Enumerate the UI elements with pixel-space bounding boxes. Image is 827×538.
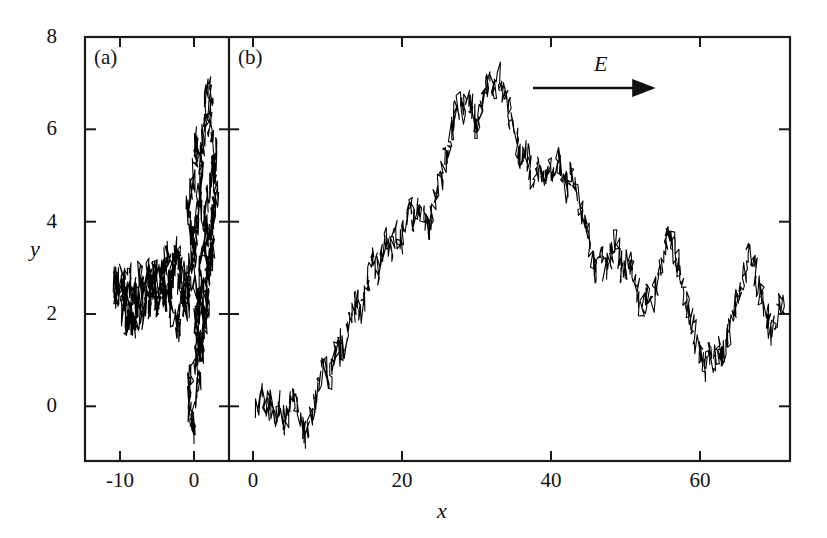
x-tick-label-a-minus10: -10 (106, 468, 134, 493)
panel-label-a: (a) (94, 45, 117, 70)
trajectory-panel-a (113, 77, 218, 444)
x-tick-label-a-0: 0 (189, 468, 200, 493)
x-axis-ticks-panel-b (253, 37, 700, 461)
y-tick-label-0: 0 (47, 393, 58, 418)
y-tick-label-6: 6 (47, 116, 58, 141)
field-label-E: E (594, 51, 607, 77)
x-tick-label-b-40: 40 (541, 468, 562, 493)
y-axis-title: y (30, 236, 40, 262)
panel-label-b: (b) (238, 45, 263, 70)
x-tick-label-b-0: 0 (248, 468, 259, 493)
random-walk-figure (0, 0, 827, 538)
right-spine-ticks (779, 129, 790, 406)
y-tick-label-4: 4 (47, 209, 58, 234)
x-tick-label-b-20: 20 (392, 468, 413, 493)
x-axis-title: x (437, 498, 447, 524)
x-tick-label-b-60: 60 (690, 468, 711, 493)
figure-container: 8 6 4 2 0 -10 0 0 20 40 60 y x (a) (b) E (0, 0, 827, 538)
trajectory-panel-b (255, 62, 785, 448)
y-tick-label-2: 2 (47, 301, 58, 326)
x-axis-ticks-panel-a (120, 37, 194, 461)
y-axis-ticks (85, 37, 96, 406)
y-tick-label-8: 8 (47, 24, 58, 49)
